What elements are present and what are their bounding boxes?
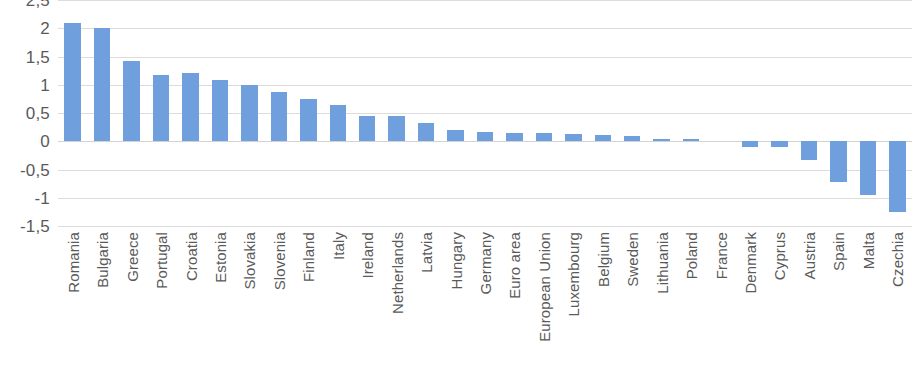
bar[interactable] (153, 75, 169, 141)
bar[interactable] (418, 123, 434, 142)
x-tick: Italy (323, 228, 352, 377)
bar[interactable] (595, 135, 611, 141)
x-tick: Euro area (500, 228, 529, 377)
bar[interactable] (830, 141, 846, 182)
x-tick-label: Lithuania (654, 232, 669, 294)
bar[interactable] (241, 85, 257, 142)
y-tick-label: 2,5 (26, 0, 50, 9)
bar-slot (87, 0, 116, 226)
bar[interactable] (300, 99, 316, 141)
bar-slot (500, 0, 529, 226)
y-tick-label: 1 (40, 76, 50, 93)
bar-slot (264, 0, 293, 226)
bar[interactable] (771, 141, 787, 147)
x-tick: Latvia (411, 228, 440, 377)
bar[interactable] (271, 92, 287, 141)
bar[interactable] (212, 80, 228, 141)
x-tick: Croatia (176, 228, 205, 377)
x-tick-label: Germany (477, 232, 492, 294)
x-tick-label: France (713, 232, 728, 279)
bar[interactable] (536, 133, 552, 141)
x-tick-label: Denmark (743, 232, 758, 294)
bar-slot (323, 0, 352, 226)
bar[interactable] (477, 132, 493, 141)
bar-slot (706, 0, 735, 226)
bar-chart: 2,521,510,50-0,5-1-1,5 RomaniaBulgariaGr… (0, 0, 914, 377)
x-tick-label: Euro area (507, 232, 522, 299)
x-tick-label: European Union (536, 232, 551, 342)
x-tick: Luxembourg (559, 228, 588, 377)
bar-slot (117, 0, 146, 226)
bar-slot (588, 0, 617, 226)
bar[interactable] (860, 141, 876, 195)
x-tick-label: Italy (330, 232, 345, 260)
bar[interactable] (182, 73, 198, 141)
y-tick-label: -1,5 (20, 218, 50, 235)
bar[interactable] (64, 23, 80, 142)
bar[interactable] (565, 134, 581, 141)
bar-slot (824, 0, 853, 226)
y-tick-label: 0,5 (26, 105, 50, 122)
bar[interactable] (653, 139, 669, 141)
x-tick-label: Estonia (212, 232, 227, 283)
x-tick: Portugal (146, 228, 175, 377)
x-tick: Sweden (618, 228, 647, 377)
bar-slot (529, 0, 558, 226)
x-tick-label: Latvia (419, 232, 434, 273)
x-tick: Poland (676, 228, 705, 377)
x-tick: Cyprus (765, 228, 794, 377)
gridline (58, 226, 912, 227)
x-tick: Spain (824, 228, 853, 377)
x-tick-label: Poland (684, 232, 699, 279)
bar[interactable] (123, 61, 139, 141)
x-tick-label: Austria (801, 232, 816, 279)
bar-slot (676, 0, 705, 226)
x-tick-label: Luxembourg (566, 232, 581, 316)
bar-slot (765, 0, 794, 226)
x-tick: Slovakia (235, 228, 264, 377)
bar[interactable] (742, 141, 758, 147)
x-tick: Belgium (588, 228, 617, 377)
bar-slot (794, 0, 823, 226)
bar[interactable] (801, 141, 817, 160)
x-tick-label: Malta (860, 232, 875, 269)
bar-slot (853, 0, 882, 226)
bar-slot (647, 0, 676, 226)
bar[interactable] (447, 130, 463, 141)
x-tick-label: Finland (301, 232, 316, 282)
x-tick: Ireland (352, 228, 381, 377)
x-tick: Lithuania (647, 228, 676, 377)
y-tick-label: 1,5 (26, 48, 50, 65)
y-axis: 2,521,510,50-0,5-1-1,5 (0, 0, 56, 226)
x-tick-label: Romania (65, 232, 80, 293)
bar[interactable] (388, 116, 404, 141)
x-tick: Denmark (735, 228, 764, 377)
x-tick: Malta (853, 228, 882, 377)
bar[interactable] (330, 105, 346, 141)
bar-slot (205, 0, 234, 226)
bar[interactable] (359, 116, 375, 141)
x-tick: Estonia (205, 228, 234, 377)
x-tick-label: Sweden (625, 232, 640, 287)
bar[interactable] (506, 133, 522, 141)
bar[interactable] (94, 28, 110, 141)
x-tick-label: Portugal (154, 232, 169, 289)
bar[interactable] (683, 139, 699, 141)
x-tick: Bulgaria (87, 228, 116, 377)
x-tick-label: Slovakia (242, 232, 257, 290)
x-tick-label: Spain (831, 232, 846, 271)
x-tick-label: Hungary (448, 232, 463, 289)
bar-slot (411, 0, 440, 226)
bar-slot (441, 0, 470, 226)
x-tick: Netherlands (382, 228, 411, 377)
x-tick: Greece (117, 228, 146, 377)
x-tick: European Union (529, 228, 558, 377)
bar[interactable] (624, 136, 640, 142)
bar-slot (883, 0, 912, 226)
x-tick-label: Bulgaria (95, 232, 110, 288)
bar[interactable] (889, 141, 905, 212)
bar-slot (735, 0, 764, 226)
bar-slot (176, 0, 205, 226)
x-tick: Romania (58, 228, 87, 377)
bar-slot (58, 0, 87, 226)
